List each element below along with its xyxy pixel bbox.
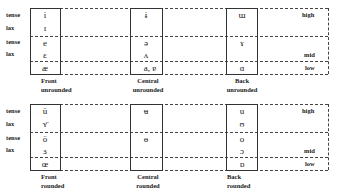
column-label-line1: Front	[41, 172, 64, 181]
bottom-border-dashed	[60, 74, 328, 75]
column-label-back: Back rounded	[227, 172, 250, 190]
column-label-line2: unrounded	[41, 85, 72, 94]
vowel-symbol: ʌ	[130, 50, 162, 60]
column-label-line2: rounded	[131, 181, 165, 190]
vowel-symbol: ʊ	[226, 119, 258, 129]
vowel-symbol: u	[226, 106, 258, 116]
row-label-mid-tense: tense	[6, 134, 20, 142]
vowel-symbol: ɒ	[226, 159, 258, 169]
column-label-line2: rounded	[227, 181, 250, 190]
vowel-symbol: e	[29, 38, 61, 48]
vowel-symbol: ɛ	[29, 50, 61, 60]
right-border-dashed	[328, 8, 329, 74]
vowel-symbol: ɜ	[29, 146, 61, 156]
vowel-symbol: ʉ	[130, 106, 162, 116]
height-label-low: low	[305, 160, 315, 168]
bottom-border-dashed	[60, 170, 328, 171]
vowel-symbol: ɵ	[130, 134, 162, 144]
vowel-symbol: a, ɐ	[134, 63, 166, 73]
vowel-symbol: ɯ	[226, 10, 258, 20]
row-label-high-lax: lax	[6, 120, 14, 128]
column-label-line1: Central	[131, 172, 165, 181]
vowel-symbol: ə	[130, 38, 162, 48]
row-label-high-tense: tense	[6, 107, 20, 115]
vowel-symbol: ɔ	[226, 146, 258, 156]
right-border-dashed	[328, 104, 329, 170]
row-label-high-lax: lax	[6, 24, 14, 32]
vowel-symbol: ü	[29, 106, 61, 116]
high-mid-divider	[30, 36, 328, 37]
column-label-front: Front unrounded	[41, 76, 72, 94]
row-label-mid-lax: lax	[6, 50, 14, 58]
unrounded-vowel-chart: tense lax tense lax high mid low i ɪ e ɛ…	[0, 0, 339, 91]
vowel-symbol: ö	[29, 134, 61, 144]
vowel-symbol: œ	[29, 159, 61, 169]
column-label-front: Front rounded	[41, 172, 64, 190]
column-label-line2: unrounded	[225, 85, 259, 94]
rounded-vowel-chart: tense lax tense lax high mid low ü ʏ̈ ö …	[0, 96, 339, 187]
row-label-mid-lax: lax	[6, 146, 14, 154]
vowel-symbol: æ	[29, 63, 61, 73]
column-label-central: Central rounded	[131, 172, 165, 190]
column-label-back: Back unrounded	[225, 76, 259, 94]
height-label-mid: mid	[304, 51, 315, 59]
column-label-line1: Back	[225, 76, 259, 85]
top-border-dashed	[60, 104, 328, 105]
top-border-dashed	[60, 8, 328, 9]
vowel-symbol: i	[29, 10, 61, 20]
vowel-symbol: ɤ	[226, 38, 258, 48]
height-label-high: high	[302, 11, 314, 19]
row-label-high-tense: tense	[6, 11, 20, 19]
height-label-high: high	[302, 107, 314, 115]
mid-low-divider	[30, 61, 328, 62]
vowel-symbol: ʏ̈	[29, 119, 61, 129]
row-label-mid-tense: tense	[6, 38, 20, 46]
mid-low-divider	[30, 157, 328, 158]
column-label-line1: Back	[227, 172, 250, 181]
column-label-line2: rounded	[41, 181, 64, 190]
column-label-line1: Central	[131, 76, 165, 85]
height-label-low: low	[305, 64, 315, 72]
column-label-central: Central unrounded	[131, 76, 165, 94]
vowel-symbol: ɪ	[29, 23, 61, 33]
vowel-symbol: o	[226, 134, 258, 144]
height-label-mid: mid	[304, 147, 315, 155]
vowel-symbol: ɨ	[130, 10, 162, 20]
column-label-line1: Front	[41, 76, 72, 85]
column-label-line2: unrounded	[131, 85, 165, 94]
vowel-symbol: ɑ	[226, 63, 258, 73]
high-mid-divider	[30, 132, 328, 133]
